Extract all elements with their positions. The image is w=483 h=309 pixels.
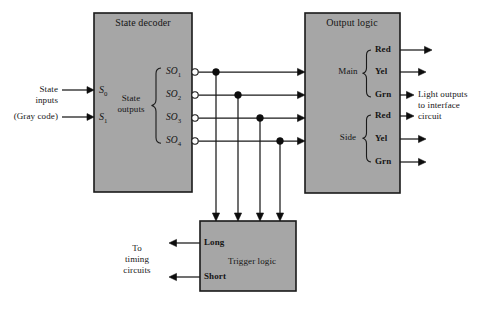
light-output-arrow-main-red <box>400 46 432 53</box>
so4-output-bubble <box>192 138 198 144</box>
state-inputs-caption-line1: State <box>40 84 59 95</box>
trigger-logic-title: Trigger logic <box>228 256 276 267</box>
state-decoder-title: State decoder <box>115 17 170 28</box>
so3-sub: 3 <box>178 117 182 124</box>
timing-caption-line1: To <box>132 243 142 254</box>
state-outputs-label-line2: outputs <box>117 104 144 115</box>
output-logic-title: Output logic <box>326 17 377 28</box>
timing-caption-line3: circuits <box>123 265 150 276</box>
timing-caption-line2: timing <box>125 254 149 265</box>
so3-output-bubble <box>192 115 198 121</box>
light-output-arrow-side-red <box>400 112 414 119</box>
light-label-side-red: Red <box>375 110 391 121</box>
wire-so2 <box>198 91 305 98</box>
state-output-label-so3: SO3 <box>166 112 181 126</box>
input-pin-s1: S1 <box>99 111 108 126</box>
light-outputs-caption-line1: Light outputs <box>418 89 468 100</box>
so4-sub: 4 <box>178 140 182 147</box>
wire-so4 <box>198 137 305 144</box>
state-output-label-so4: SO4 <box>166 135 181 149</box>
so1-sub: 1 <box>178 71 182 78</box>
state-input-arrow-s1 <box>62 114 94 121</box>
input-pin-s0: S0 <box>99 84 108 99</box>
input-pin-s0-sub: 0 <box>104 90 108 97</box>
state-output-label-so2: SO2 <box>166 89 181 103</box>
light-output-arrow-main-grn <box>400 91 414 98</box>
input-pin-s1-sub: 1 <box>104 117 108 124</box>
block-diagram-figure: State decoder State outputs State inputs… <box>0 0 483 309</box>
light-label-main-grn: Grn <box>375 89 391 100</box>
light-label-main-yel: Yel <box>375 66 387 77</box>
light-label-side-yel: Yel <box>375 133 387 144</box>
wire-so3 <box>198 114 305 121</box>
state-outputs-label-line1: State <box>122 93 141 104</box>
so1-name: SO <box>166 66 178 76</box>
tap-so4-to-trigger <box>276 138 283 221</box>
light-output-arrow-side-grn <box>400 158 426 165</box>
so4-name: SO <box>166 135 178 145</box>
so2-output-bubble <box>192 92 198 98</box>
trigger-port-long: Long <box>204 237 224 248</box>
light-output-arrow-side-yel <box>400 135 426 142</box>
light-output-arrow-main-yel <box>400 68 426 75</box>
so2-sub: 2 <box>178 94 182 101</box>
trigger-output-arrow-long <box>169 239 200 246</box>
tap-so2-to-trigger <box>234 92 241 221</box>
trigger-port-short: Short <box>204 271 226 282</box>
so2-name: SO <box>166 89 178 99</box>
tap-so3-to-trigger <box>256 115 263 221</box>
light-outputs-caption-line3: circuit <box>418 111 442 122</box>
state-inputs-caption-line2: inputs <box>35 95 58 106</box>
state-input-arrow-s0 <box>62 87 94 94</box>
output-group-side-label: Side <box>340 132 356 143</box>
light-label-side-grn: Grn <box>375 156 391 167</box>
light-label-main-red: Red <box>375 44 391 55</box>
light-outputs-caption-line2: to interface <box>418 100 460 111</box>
trigger-output-arrow-short <box>169 273 200 280</box>
output-group-main-label: Main <box>338 66 357 77</box>
so1-output-bubble <box>192 69 198 75</box>
state-inputs-caption-line3: (Gray code) <box>14 111 58 122</box>
tap-so1-to-trigger <box>212 69 219 221</box>
state-output-label-so1: SO1 <box>166 66 181 80</box>
so3-name: SO <box>166 112 178 122</box>
